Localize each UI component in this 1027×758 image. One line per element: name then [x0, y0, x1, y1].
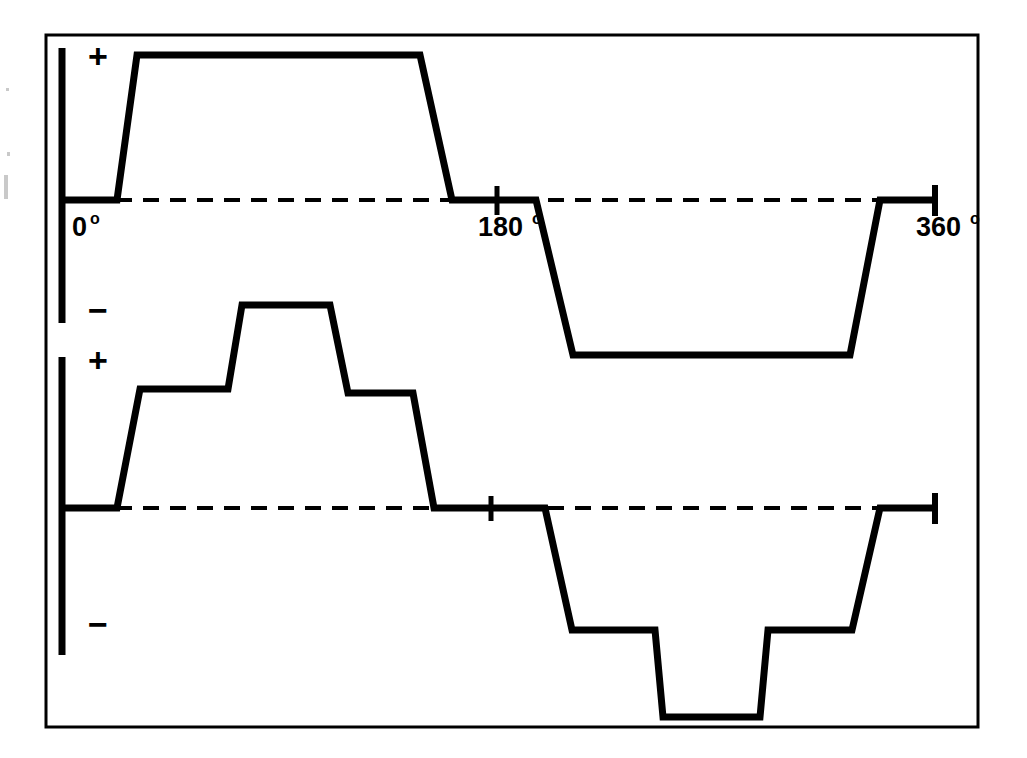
degree-symbol-icon: o [90, 210, 100, 227]
degree-symbol-icon: o [970, 210, 980, 227]
degree-label-360-value: 360 [916, 212, 961, 242]
lower-trace-group: + − [62, 305, 935, 717]
degree-labels-group: 0 o 180 o 360 o [72, 210, 980, 242]
degree-label-0: 0 o [72, 210, 100, 242]
degree-symbol-icon: o [532, 210, 542, 227]
degree-label-0-value: 0 [72, 212, 87, 242]
lower-minus-label: − [88, 605, 108, 643]
degree-label-180: 180 o [478, 210, 542, 242]
upper-minus-label: − [88, 291, 108, 329]
upper-plus-label: + [88, 37, 108, 75]
figure-frame [46, 35, 978, 727]
degree-label-180-value: 180 [478, 212, 523, 242]
degree-label-360: 360 o [916, 210, 980, 242]
lower-waveform-path [62, 305, 935, 717]
upper-trace-group: + − [62, 37, 935, 355]
waveform-figure: + − + − 0 o 180 o 360 o [0, 0, 1027, 758]
lower-plus-label: + [88, 341, 108, 379]
figure-page: + − + − 0 o 180 o 360 o [0, 0, 1027, 758]
